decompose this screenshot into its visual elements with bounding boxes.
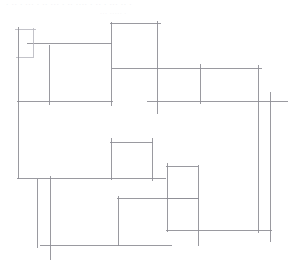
line-drawing [0, 0, 296, 274]
vertical-segments-group [18, 21, 270, 260]
drawing-canvas: · ·· · ··· · ·· ··· · ·· ···· · ·· · ···… [0, 0, 296, 274]
horizontal-segments-group [15, 23, 288, 245]
